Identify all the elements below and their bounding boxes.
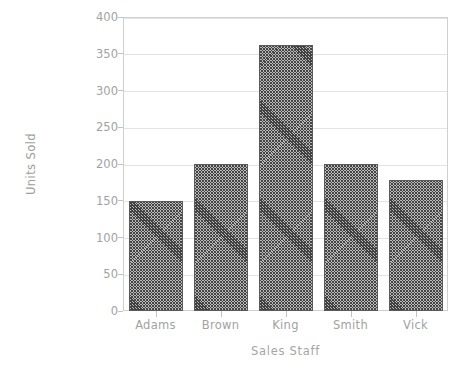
y-axis-title: Units Sold [22,17,40,311]
y-axis-tick-label: 200 [82,157,118,171]
x-axis-tick-mark [156,311,157,317]
y-axis-tick-mark [118,274,123,275]
gridline [124,275,447,276]
x-axis-tick-label: Brown [202,318,240,332]
x-axis-title: Sales Staff [123,344,448,358]
y-axis-tick-mark [118,237,123,238]
x-axis-tick-label: King [272,318,299,332]
y-axis-tick-mark [118,90,123,91]
x-axis-tick-label: Adams [135,318,176,332]
gridline [124,18,447,19]
gridline [124,165,447,166]
gridline [124,91,447,92]
bar-chart: Units Sold 050100150200250300350400 Adam… [0,0,457,378]
y-axis-tick-label: 300 [82,84,118,98]
y-axis-tick-mark [118,311,123,312]
y-axis-tick-mark [118,127,123,128]
x-axis-tick-label: Vick [403,318,428,332]
x-axis-tick-mark [221,311,222,317]
x-axis-tick-mark [286,311,287,317]
y-axis-tick-label: 100 [82,231,118,245]
x-axis-tick-mark [351,311,352,317]
y-axis-tick-labels: 050100150200250300350400 [78,17,118,311]
y-axis-tick-mark [118,53,123,54]
gridline [124,238,447,239]
x-axis-tick-label: Smith [333,318,368,332]
plot-area [123,17,448,311]
y-axis-tick-mark [118,200,123,201]
y-axis-tick-label: 150 [82,194,118,208]
y-axis-tick-mark [118,17,123,18]
y-axis-tick-label: 250 [82,120,118,134]
y-axis-tick-label: 400 [82,10,118,24]
gridline [124,201,447,202]
x-axis-tick-mark [416,311,417,317]
y-axis-tick-label: 350 [82,47,118,61]
gridline [124,128,447,129]
gridline [124,54,447,55]
y-axis-tick-label: 0 [82,304,118,318]
x-axis-tick-labels: AdamsBrownKingSmithVick [123,318,448,338]
y-axis-tick-mark [118,164,123,165]
y-axis-tick-label: 50 [82,267,118,281]
